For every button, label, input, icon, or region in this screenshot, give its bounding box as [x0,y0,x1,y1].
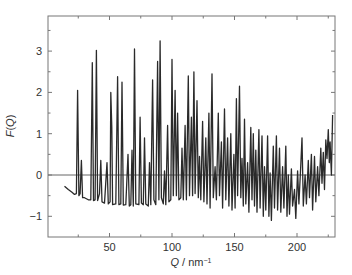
x-axis-label: Q / nm−1 [171,256,212,268]
x-tick-label: 150 [225,241,243,253]
x-tick-label: 50 [103,241,115,253]
x-tick-label: 100 [163,241,181,253]
chart: 50100150200 −10123 Q / nm−1 F(Q) [0,0,352,275]
series-line [65,41,333,221]
y-tick-label: 2 [36,86,42,98]
x-tick-label: 200 [288,241,306,253]
y-tick-label: 1 [36,128,42,140]
y-tick-label: −1 [29,210,42,222]
y-axis-label: F(Q) [4,115,16,138]
y-tick-label: 3 [36,45,42,57]
y-tick-label: 0 [36,169,42,181]
